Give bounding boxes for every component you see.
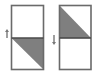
arrow-down-icon: [52, 35, 56, 45]
right-panel: [52, 6, 91, 70]
right-shaded-triangle: [60, 6, 92, 39]
left-panel: [5, 6, 44, 70]
diagram-canvas: [0, 0, 101, 76]
left-shaded-triangle: [12, 38, 44, 70]
arrow-up-icon: [5, 29, 9, 38]
